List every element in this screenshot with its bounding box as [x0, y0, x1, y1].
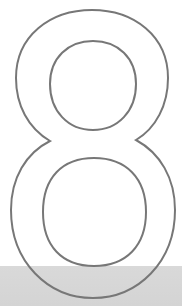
numeral-graphic-canvas: 8 [0, 0, 182, 306]
numeral-outer-contour [11, 10, 175, 298]
numeral-eight-outline-icon [0, 0, 182, 306]
numeral-upper-counter [50, 41, 136, 130]
numeral-lower-counter [43, 158, 146, 266]
